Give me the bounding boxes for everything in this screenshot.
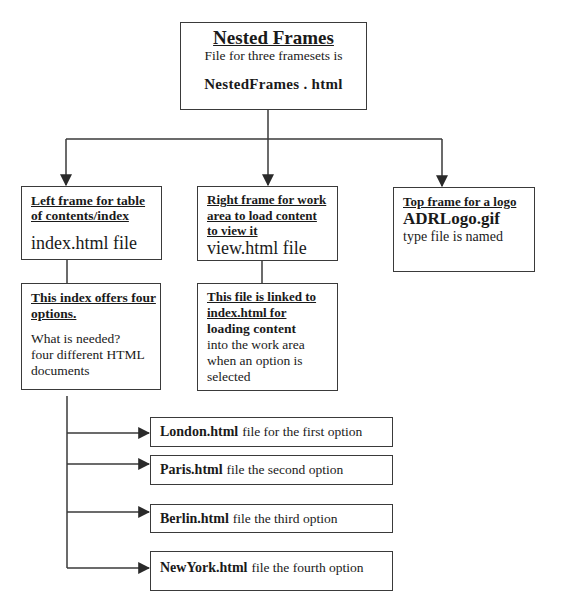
top-frame-file: ADRLogo.gif <box>403 209 534 228</box>
option-london: London.html file for the first option <box>150 417 393 447</box>
heading-line: area to load content <box>207 208 317 223</box>
body-line: What is needed? <box>31 331 120 346</box>
heading-line: options. <box>31 306 76 321</box>
bold-line: loading content <box>207 321 296 336</box>
top-frame-heading: Top frame for a logo <box>403 194 534 209</box>
option-newyork: NewYork.html file the fourth option <box>150 551 393 591</box>
body-line: selected <box>207 369 250 384</box>
heading-line: Right frame for work <box>207 192 326 207</box>
top-frame-node: Top frame for a logo ADRLogo.gif type fi… <box>393 187 535 272</box>
root-node-nested-frames: Nested Frames File for three framesets i… <box>180 22 367 110</box>
top-frame-note: type file is named <box>403 228 534 245</box>
option-file: NewYork.html <box>160 560 248 576</box>
body-line: four different HTML <box>31 347 145 362</box>
option-desc: file for the first option <box>242 424 362 440</box>
option-desc: file the third option <box>233 511 338 527</box>
right-frame-node: Right frame for work area to load conten… <box>197 186 338 261</box>
view-detail-heading: This file is linked to index.html for <box>207 289 337 321</box>
index-detail-node: This index offers four options. What is … <box>21 283 161 390</box>
body-line: into the work area <box>207 337 305 352</box>
left-frame-node: Left frame for table of contents/index i… <box>21 186 162 260</box>
heading-line: to view it <box>207 223 258 238</box>
heading-line: of contents/index <box>31 208 129 223</box>
root-title: Nested Frames <box>181 28 366 48</box>
right-frame-heading: Right frame for work area to load conten… <box>207 192 337 239</box>
left-frame-heading: Left frame for table of contents/index <box>31 193 161 223</box>
index-detail-heading: This index offers four options. <box>31 290 160 322</box>
option-file: London.html <box>160 424 238 440</box>
option-berlin: Berlin.html file the third option <box>150 504 393 533</box>
option-desc: file the fourth option <box>252 560 364 576</box>
heading-line: Left frame for table <box>31 193 145 208</box>
heading-line: This file is linked to <box>207 289 316 304</box>
heading-line: This index offers four <box>31 290 156 305</box>
option-file: Berlin.html <box>160 511 229 527</box>
root-subtitle: File for three framesets is <box>181 48 366 64</box>
right-frame-file: view.html file <box>207 239 337 257</box>
view-detail-node: This file is linked to index.html for lo… <box>197 283 338 391</box>
body-line: when an option is <box>207 353 303 368</box>
heading-line: index.html for <box>207 305 286 320</box>
index-detail-body: What is needed? four different HTML docu… <box>31 331 160 379</box>
left-frame-file: index.html file <box>31 233 161 254</box>
view-detail-body: loading content into the work area when … <box>207 321 337 385</box>
root-file: NestedFrames . html <box>181 76 366 93</box>
body-line: documents <box>31 363 90 378</box>
option-desc: file the second option <box>227 462 344 478</box>
option-paris: Paris.html file the second option <box>150 455 393 485</box>
option-file: Paris.html <box>160 462 223 478</box>
